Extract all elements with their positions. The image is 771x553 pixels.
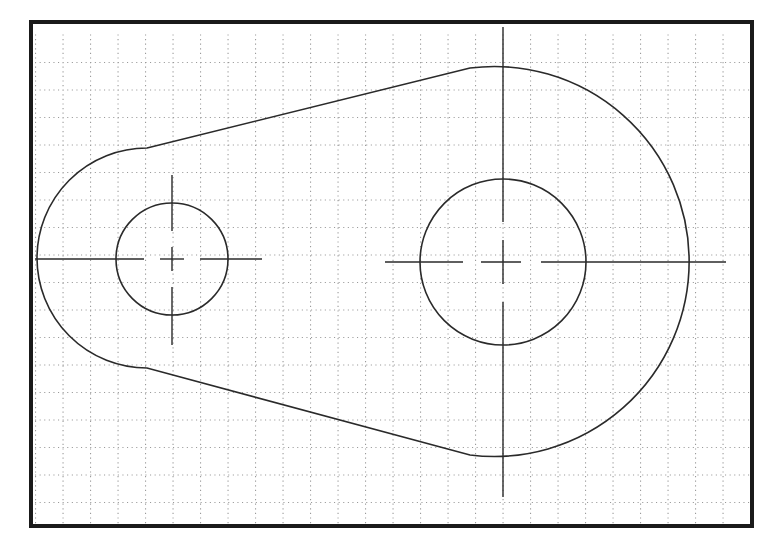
centerlines bbox=[35, 27, 726, 497]
grid-dots bbox=[35, 35, 751, 523]
dotted-grid bbox=[35, 35, 751, 523]
drawing-svg bbox=[0, 0, 771, 553]
drawing-frame bbox=[31, 22, 752, 526]
cad-drawing-canvas bbox=[0, 0, 771, 553]
